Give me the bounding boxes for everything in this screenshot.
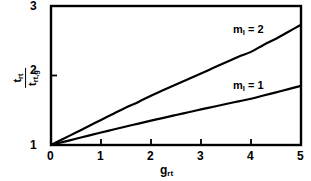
axis-tick-marks: [51, 76, 251, 146]
curve-ml-1: [51, 86, 301, 145]
plot-area: [0, 0, 311, 181]
chart-figure: trt trt,g 3 2 1 0 1 2 3 4 5 grt ml = 2 m…: [0, 0, 311, 181]
plot-frame: [51, 6, 301, 145]
curve-ml-2: [51, 25, 301, 145]
